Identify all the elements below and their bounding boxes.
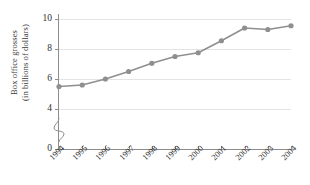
data-point [265,27,270,32]
y-axis-tick-label: 8 [47,43,52,53]
data-point [196,50,201,55]
y-axis-tick [55,49,59,50]
line-chart: Box office grosses (in billions of dolla… [0,0,310,185]
y-axis-tick [55,109,59,110]
data-point [242,25,247,30]
data-point [149,61,154,66]
series-markers [56,23,293,89]
data-point [103,76,108,81]
y-axis-tick-label: 10 [43,13,53,23]
y-axis-tick-label: 6 [47,73,52,83]
data-point [219,38,224,43]
y-axis-tick-label: 4 [47,103,52,113]
data-point [126,69,131,74]
data-point [172,54,177,59]
data-point [80,82,85,87]
data-point [288,23,293,28]
y-axis-tick [55,19,59,20]
y-axis-tick [55,79,59,80]
data-point [56,84,61,89]
